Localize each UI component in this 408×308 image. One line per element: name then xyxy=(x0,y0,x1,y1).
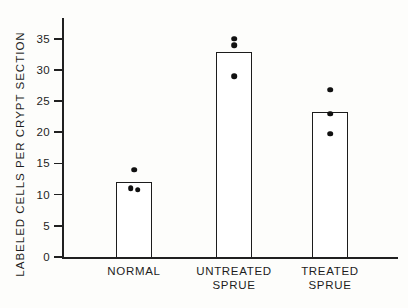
y-tick-label-35: 35 xyxy=(36,33,50,45)
scatter-point xyxy=(327,111,333,117)
scatter-point xyxy=(231,36,237,42)
y-tick-5: 5 xyxy=(54,225,62,227)
y-tick-10: 10 xyxy=(54,194,62,196)
y-tick-25: 25 xyxy=(54,100,62,102)
y-axis-line xyxy=(62,18,64,259)
y-tick-label-5: 5 xyxy=(43,220,50,232)
scatter-point xyxy=(231,42,237,48)
scatter-point xyxy=(135,187,141,193)
y-tick-30: 30 xyxy=(54,69,62,71)
x-label-untreated-sprue: UNTREATED SPRUE xyxy=(196,264,272,292)
y-tick-label-15: 15 xyxy=(36,157,50,169)
x-label-treated-sprue: TREATED SPRUE xyxy=(301,264,359,292)
y-axis-title: LABELED CELLS PER CRYPT SECTION xyxy=(9,20,31,288)
bar-untreated-sprue xyxy=(216,52,252,257)
scatter-point xyxy=(231,73,237,79)
y-tick-label-0: 0 xyxy=(43,251,50,263)
y-tick-label-30: 30 xyxy=(36,64,50,76)
y-tick-15: 15 xyxy=(54,163,62,165)
y-tick-20: 20 xyxy=(54,131,62,133)
y-tick-label-20: 20 xyxy=(36,126,50,138)
x-axis-line xyxy=(62,257,398,259)
y-tick-label-10: 10 xyxy=(36,189,50,201)
scatter-point xyxy=(131,167,137,173)
chart-figure: LABELED CELLS PER CRYPT SECTION 05101520… xyxy=(0,0,408,308)
plot-area: 05101520253035 NORMALUNTREATED SPRUETREA… xyxy=(62,18,398,259)
scatter-point xyxy=(327,87,333,93)
scatter-point xyxy=(327,131,333,137)
y-tick-label-25: 25 xyxy=(36,95,50,107)
y-tick-0: 0 xyxy=(54,256,62,258)
scatter-point xyxy=(128,186,134,192)
y-tick-35: 35 xyxy=(54,38,62,40)
x-label-normal: NORMAL xyxy=(107,264,160,278)
bar-normal xyxy=(116,182,152,257)
